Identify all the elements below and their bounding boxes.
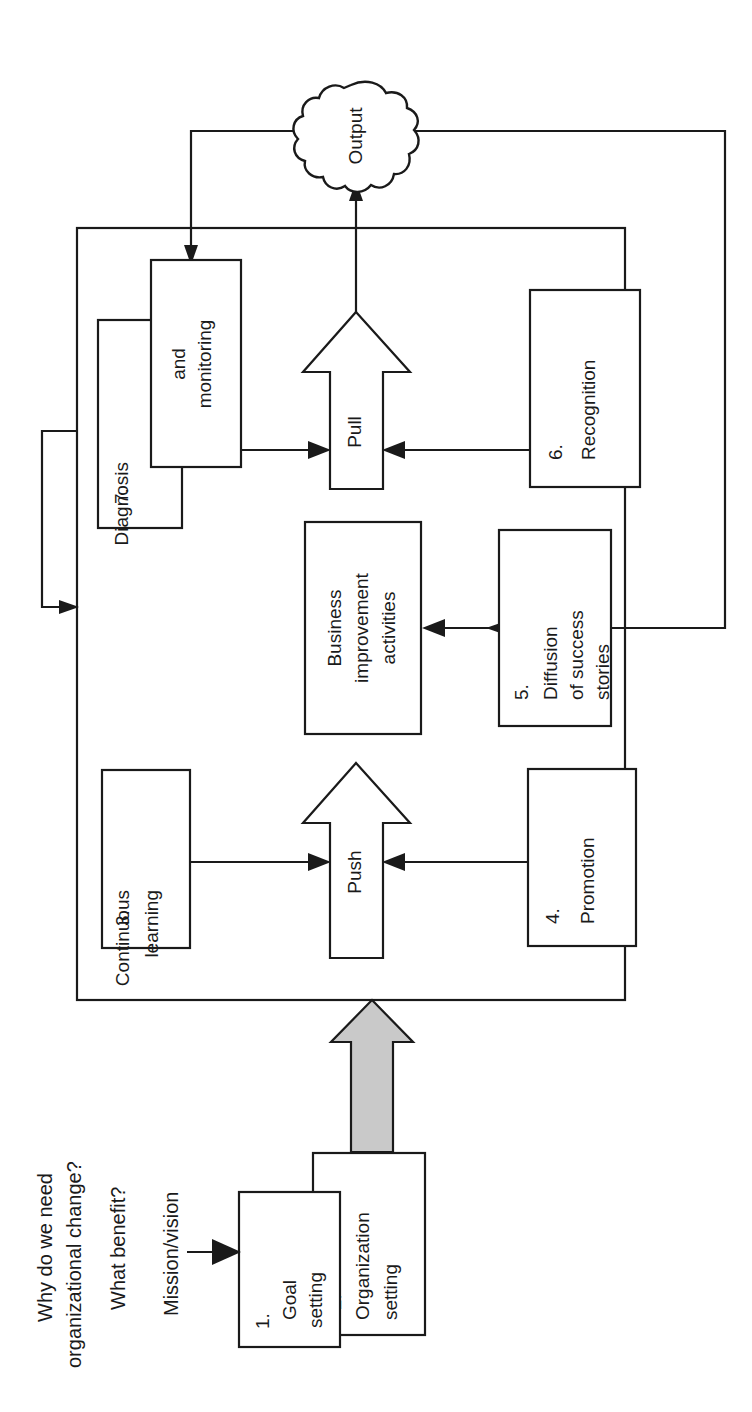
bia-label-line2: improvement — [351, 572, 372, 683]
node-1-label-line2: setting — [305, 1272, 326, 1328]
node-7-label-line1: Diagnosis — [111, 462, 132, 545]
node-4-label-line1: Promotion — [577, 837, 598, 924]
output-cloud-label: Output — [345, 107, 366, 165]
node-6-number: 6. — [545, 444, 566, 460]
block-arrow-entry-gray-shape — [331, 1000, 413, 1152]
question-why-line2: organizational change? — [63, 1161, 85, 1368]
arrowhead-learning-to-push — [308, 853, 331, 871]
node-1-number: 1. — [252, 1313, 273, 1329]
node-5-label-line3: stories — [592, 644, 613, 700]
block-arrow-pull-shape — [303, 312, 410, 489]
arrowhead-mission-to-goal — [212, 1239, 241, 1265]
question-benefit: What benefit? — [107, 1187, 129, 1310]
connector-output-to-monitoring — [191, 131, 303, 251]
node-5-label-line2: of success — [566, 610, 587, 700]
node-2-label-line1: Organization — [352, 1212, 373, 1320]
bia-label-line3: activities — [378, 592, 399, 665]
node-1-label-line1: Goal — [279, 1280, 300, 1320]
arrowhead-recognition-to-pull — [382, 441, 405, 459]
node-7b-label-line2: monitoring — [194, 320, 215, 409]
node-3-label-line1: Continuous — [112, 890, 133, 986]
bia-label-line1: Business — [324, 589, 345, 666]
connector-feedback-loop-left — [42, 431, 77, 607]
block-arrow-pull-label: Pull — [344, 416, 365, 448]
node-5-number: 5. — [511, 684, 532, 700]
node-7b-label-line1: and — [168, 348, 189, 380]
node-2-label-line2: setting — [380, 1264, 401, 1320]
arrowhead-monitoring-to-pull — [308, 441, 331, 459]
node-6-label-line1: Recognition — [578, 360, 599, 460]
arrowhead-diffusion-to-bia — [422, 619, 445, 637]
block-arrow-entry-gray — [331, 1000, 413, 1152]
arrowhead-promotion-to-push — [382, 853, 405, 871]
block-arrow-pull: Pull — [303, 312, 410, 489]
block-arrow-push-label: Push — [344, 850, 365, 893]
question-why-line1: Why do we need — [34, 1173, 56, 1322]
node-3-label-line2: learning — [141, 890, 162, 958]
diagram-canvas: Output 7. Diagnosis and monitoring Pull … — [0, 0, 752, 1412]
label-mission-vision: Mission/vision — [160, 1192, 182, 1316]
node-4-number: 4. — [542, 908, 563, 924]
node-5-label-line1: Diffusion — [540, 626, 561, 700]
